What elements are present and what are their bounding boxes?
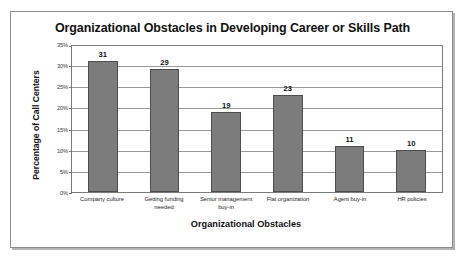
chart-title: Organizational Obstacles in Developing C… xyxy=(11,21,454,35)
x-axis-category-label: HR policies xyxy=(381,196,443,211)
y-axis-tick-mark xyxy=(69,193,72,194)
bar-value-label: 23 xyxy=(284,84,292,93)
bar-slot: 10 xyxy=(380,46,442,192)
y-axis-tick-labels: 0%5%10%15%20%25%30%35% xyxy=(45,45,71,193)
bar[interactable]: 29 xyxy=(150,69,180,192)
bar-value-label: 11 xyxy=(346,135,354,144)
y-axis-tick-label: 15% xyxy=(57,127,68,133)
bar-value-label: 19 xyxy=(222,101,230,110)
bar[interactable]: 10 xyxy=(396,150,426,192)
x-axis-category-label: Flat organization xyxy=(257,196,319,211)
bar-slot: 29 xyxy=(134,46,196,192)
x-axis-category-labels: Company cultureGetting funding neededSen… xyxy=(71,196,443,211)
y-axis-title: Percentage of Call Centers xyxy=(31,50,41,200)
bar[interactable]: 23 xyxy=(273,95,303,192)
bar-value-label: 31 xyxy=(99,50,107,59)
bar[interactable]: 11 xyxy=(335,146,365,193)
plot-area: 312919231110 xyxy=(71,45,443,193)
x-axis-category-label: Getting funding needed xyxy=(133,196,195,211)
y-axis-tick-label: 25% xyxy=(57,84,68,90)
bar-value-label: 10 xyxy=(407,139,415,148)
bar-value-label: 29 xyxy=(160,58,168,67)
bar-slot: 31 xyxy=(72,46,134,192)
bar-slot: 23 xyxy=(257,46,319,192)
plot-wrapper: 0%5%10%15%20%25%30%35% 312919231110 xyxy=(45,45,443,193)
bar-slot: 19 xyxy=(195,46,257,192)
bar[interactable]: 31 xyxy=(88,61,118,192)
y-axis-tick-label: 5% xyxy=(60,169,68,175)
y-axis-tick-label: 35% xyxy=(57,42,68,48)
y-axis-tick-label: 30% xyxy=(57,63,68,69)
y-axis-tick-label: 10% xyxy=(57,148,68,154)
x-axis-category-label: Agent buy-in xyxy=(319,196,381,211)
y-axis-tick-label: 0% xyxy=(60,190,68,196)
x-axis-title: Organizational Obstacles xyxy=(51,219,441,229)
x-axis-category-label: Company culture xyxy=(71,196,133,211)
y-axis-tick-label: 20% xyxy=(57,105,68,111)
bar-slot: 11 xyxy=(319,46,381,192)
bar[interactable]: 19 xyxy=(211,112,241,192)
chart-frame: Organizational Obstacles in Developing C… xyxy=(10,11,453,248)
bars-layer: 312919231110 xyxy=(72,46,442,192)
x-axis-category-label: Senior management buy-in xyxy=(195,196,257,211)
